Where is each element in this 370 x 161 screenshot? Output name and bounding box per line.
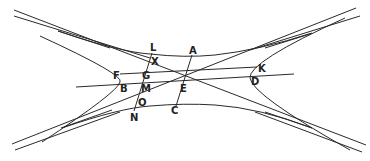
hyperbola-bottom-branch (62, 104, 312, 128)
diagram-canvas (0, 0, 370, 161)
label-f: F (113, 71, 120, 81)
outer-line-bottom-left (15, 112, 120, 150)
outer-line-top-right (250, 16, 360, 50)
label-g: G (142, 71, 150, 81)
label-e: E (180, 84, 187, 94)
label-l: L (150, 43, 156, 53)
label-x: X (151, 57, 159, 67)
label-n: N (130, 113, 138, 123)
outer-line-top-left (14, 16, 150, 58)
outer-line-bottom-right (255, 112, 362, 152)
label-b: B (120, 84, 128, 94)
line-fk (120, 67, 257, 74)
hyperbola-diagram: L A X K F G D B M E O C N (0, 0, 370, 161)
hyperbola-right-branch (250, 18, 350, 150)
label-m: M (141, 84, 151, 94)
label-a: A (189, 46, 197, 56)
label-k: K (258, 64, 266, 74)
label-d: D (251, 77, 259, 87)
label-o: O (138, 98, 147, 108)
label-c: C (171, 106, 178, 116)
